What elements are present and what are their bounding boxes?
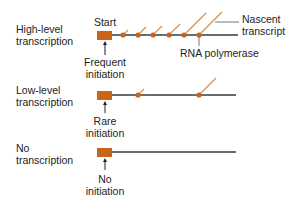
rna-polymerase xyxy=(135,92,140,97)
row-low-graphics xyxy=(97,78,236,113)
nascent-transcript xyxy=(199,78,216,95)
initiation-label-low: Rare initiation xyxy=(86,115,125,139)
row-label-none: No transcription xyxy=(16,142,73,166)
initiation-label-high: Frequent initiation xyxy=(84,56,126,80)
promoter-box xyxy=(97,31,112,40)
rna-polymerase xyxy=(196,32,201,37)
rna-polymerase xyxy=(181,32,186,37)
row-label-line2: transcription xyxy=(16,96,73,108)
rna-polymerase-label: RNA polymerase xyxy=(180,47,259,59)
row-label-line1: High-level xyxy=(16,23,73,35)
arrowhead-icon xyxy=(103,41,107,45)
row-none-graphics xyxy=(97,148,236,170)
initiation-line2: initiation xyxy=(84,68,126,80)
nascent-transcript-label: Nascent transcript xyxy=(242,13,285,37)
nascent-transcript xyxy=(199,12,222,35)
rna-polymerase xyxy=(150,32,155,37)
row-label-low: Low-level transcription xyxy=(16,84,73,108)
row-label-line1: No xyxy=(16,142,73,154)
promoter-box xyxy=(97,91,112,100)
nascent-line2: transcript xyxy=(242,25,285,37)
row-label-line2: transcription xyxy=(16,154,73,166)
promoter-box xyxy=(97,148,112,157)
initiation-line1: Rare xyxy=(86,115,125,127)
initiation-label-none: No initiation xyxy=(86,173,125,197)
arrowhead-icon xyxy=(103,101,107,105)
initiation-line2: initiation xyxy=(86,127,125,139)
initiation-line2: initiation xyxy=(86,185,125,197)
nascent-line1: Nascent xyxy=(242,13,285,25)
arrowhead-icon xyxy=(103,158,107,162)
row-label-line2: transcription xyxy=(16,35,73,47)
rna-polymerase xyxy=(120,32,125,37)
start-label: Start xyxy=(94,16,116,28)
initiation-line1: No xyxy=(86,173,125,185)
rna-polymerase xyxy=(196,92,201,97)
initiation-line1: Frequent xyxy=(84,56,126,68)
rna-polymerase xyxy=(135,32,140,37)
row-label-high: High-level transcription xyxy=(16,23,73,47)
rna-polymerase xyxy=(166,32,171,37)
row-label-line1: Low-level xyxy=(16,84,73,96)
